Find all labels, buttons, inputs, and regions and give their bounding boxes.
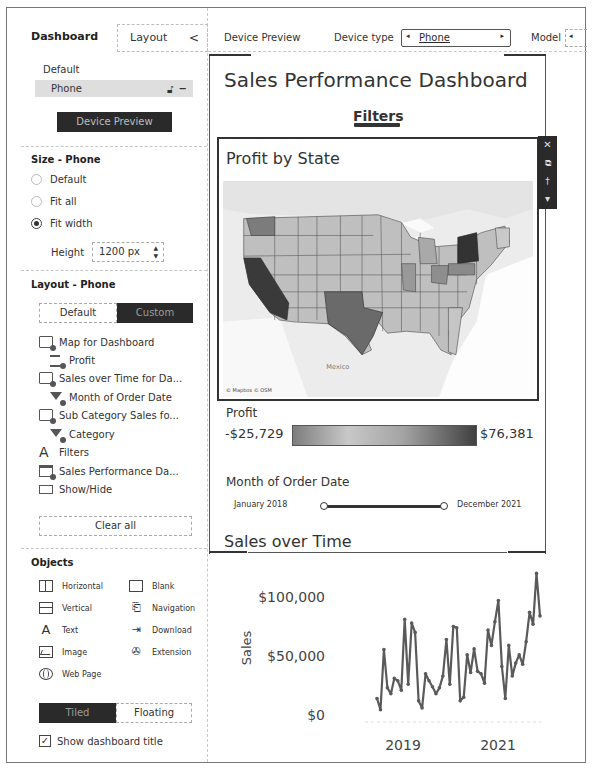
profit-color-ramp [292,425,477,446]
download-icon: ⇥ [129,624,143,636]
object-navigation[interactable]: ⎗ Navigation [129,602,195,614]
phone-corner [209,54,251,56]
more-icon[interactable]: − [179,80,187,97]
map-canvas[interactable]: Mexico © Mapbox © OSM [223,181,533,397]
pin-icon[interactable]: † [538,172,557,190]
tree-item-label: Month of Order Date [69,392,172,403]
model-select[interactable]: ◂ [565,29,587,47]
show-title-label: Show dashboard title [57,736,163,747]
tree-item-profit[interactable]: Profit [49,354,95,366]
object-label: Image [62,648,87,657]
size-option-default[interactable]: Default [31,174,87,185]
divider [21,146,207,147]
blank-icon [129,580,143,592]
slider-start-handle[interactable] [320,502,328,510]
divider [21,270,207,271]
radio-selected-icon[interactable] [31,218,42,229]
radio-icon[interactable] [31,196,42,207]
close-icon[interactable]: ✕ [538,136,557,154]
map-attribution[interactable]: © Mapbox © OSM [226,387,272,393]
device-phone-item[interactable]: Phone 🔓︎ − [35,80,193,97]
tiled-button[interactable]: Tiled [39,703,116,723]
clear-all-button[interactable]: Clear all [39,516,192,536]
height-input[interactable]: 1200 px ▲▼ [92,242,164,262]
height-label: Height [51,247,84,258]
device-preview-button[interactable]: Device Preview [57,112,172,132]
svg-text:2021: 2021 [480,737,516,753]
tree-item-dashboard-title[interactable]: Sales Performance Da... [39,465,179,477]
size-option-label: Default [50,174,87,185]
arrow-left-icon[interactable]: ◂ [406,32,410,40]
object-blank[interactable]: Blank [129,580,174,592]
slider-end-handle[interactable] [440,502,448,510]
arrow-left-icon[interactable]: ◂ [569,32,573,40]
filters-text-object[interactable]: Filters [353,108,404,124]
device-phone-label: Phone [51,83,82,94]
panel-tabs: Dashboard Layout < [7,24,208,52]
size-option-fit-width[interactable]: Fit width [31,218,92,229]
radio-icon[interactable] [31,174,42,185]
object-horizontal[interactable]: Horizontal [39,580,103,592]
slider-track[interactable] [324,505,444,508]
tree-item-sub-category-sales[interactable]: Sub Category Sales fo... [39,409,179,421]
tree-item-show-hide[interactable]: Show/Hide [39,484,112,495]
object-vertical[interactable]: Vertical [39,602,92,614]
size-section-title: Size - Phone [31,154,101,165]
lock-icon[interactable]: 🔓︎ [167,81,173,98]
show-hide-icon [39,485,53,494]
sheet-icon [39,409,53,421]
profit-legend-max: $76,381 [480,426,534,441]
floating-toolbar: ✕ ⧉ † ▾ [538,136,557,209]
profit-by-state-map-container[interactable]: Profit by State [217,137,539,401]
svg-text:2019: 2019 [385,737,421,753]
chevron-left-icon[interactable]: < [189,25,199,51]
tab-dashboard[interactable]: Dashboard [31,24,98,52]
dropdown-icon[interactable]: ▾ [538,190,557,208]
extension-icon: ✇ [129,646,143,658]
object-web-page[interactable]: Web Page [39,668,101,680]
stepper-icon[interactable]: ▲▼ [153,244,158,260]
profit-legend-title: Profit [226,406,257,420]
horizontal-icon [39,580,53,592]
height-row: Height 1200 px ▲▼ [51,242,164,262]
date-filter-end: December 2021 [457,500,521,509]
divider [21,548,207,549]
tree-item-map[interactable]: Map for Dashboard [39,336,154,348]
navigation-icon: ⎗ [129,602,143,614]
object-download[interactable]: ⇥ Download [129,624,192,636]
object-extension[interactable]: ✇ Extension [129,646,191,658]
tab-layout[interactable]: Layout < [117,24,208,52]
legend-icon [49,354,63,366]
date-filter-title: Month of Order Date [226,475,349,489]
tree-item-month-of-order-date[interactable]: Month of Order Date [49,391,172,403]
tree-item-label: Sales Performance Da... [59,466,179,477]
vertical-icon [39,602,53,614]
device-type-value: Phone [419,32,450,43]
object-image[interactable]: Image [39,646,87,658]
globe-icon [39,668,53,680]
size-option-fit-all[interactable]: Fit all [31,196,77,207]
device-type-select[interactable]: ◂ Phone ▸ [401,29,511,47]
sheet-icon [39,372,53,384]
open-external-icon[interactable]: ⧉ [538,154,557,172]
date-range-slider[interactable] [320,503,448,509]
object-text[interactable]: A Text [39,624,78,636]
drag-handle[interactable] [354,123,400,127]
tree-item-label: Filters [59,447,89,458]
layout-custom-button[interactable]: Custom [117,303,193,323]
object-label: Vertical [62,604,92,613]
tree-item-filters[interactable]: A Filters [39,446,89,458]
checkbox-checked-icon[interactable]: ✓ [39,735,51,747]
show-title-row[interactable]: ✓ Show dashboard title [39,735,163,747]
text-icon: A [39,624,53,636]
tree-item-sales-over-time[interactable]: Sales over Time for Da... [39,372,182,384]
floating-button[interactable]: Floating [116,703,192,723]
mexico-label: Mexico [326,363,349,371]
device-default-label[interactable]: Default [43,64,80,75]
svg-text:Sales: Sales [239,630,254,665]
object-label: Text [62,626,78,635]
tree-item-category[interactable]: Category [49,428,115,440]
layout-default-button[interactable]: Default [39,303,117,323]
arrow-right-icon[interactable]: ▸ [500,32,504,40]
sales-over-time-chart[interactable]: $100,000$50,000$0Sales20192021 [215,560,580,760]
